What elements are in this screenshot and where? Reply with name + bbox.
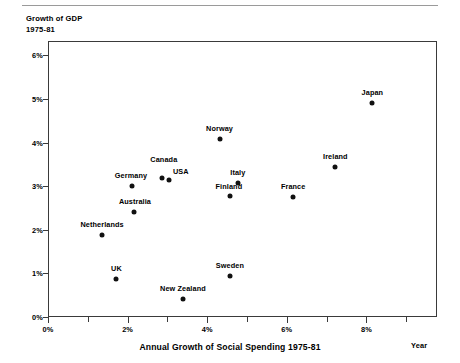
- data-point-label: New Zealand: [160, 284, 206, 293]
- data-point[interactable]: [159, 175, 164, 180]
- x-axis-tick: [128, 317, 129, 323]
- x-axis-tick-label: 2%: [122, 325, 133, 334]
- x-axis-minor-tick: [88, 317, 89, 322]
- header-divider: [22, 5, 438, 6]
- x-axis-tick: [207, 317, 208, 323]
- data-point[interactable]: [227, 193, 232, 198]
- y-axis-tick-label: 5%: [21, 95, 43, 104]
- y-axis-title: Growth of GDP1975-81: [26, 14, 82, 35]
- data-point-label: UK: [111, 263, 122, 272]
- x-axis-tick: [48, 317, 49, 323]
- y-axis-tick: [43, 143, 48, 144]
- y-axis-tick: [43, 55, 48, 56]
- y-axis-tick-label: 2%: [21, 226, 43, 235]
- data-point[interactable]: [100, 233, 105, 238]
- data-point[interactable]: [129, 183, 134, 188]
- data-point-label: Netherlands: [80, 220, 123, 229]
- chart-title: Annual Growth of Social Spending 1975-81: [0, 342, 460, 352]
- data-point-label: USA: [173, 166, 189, 175]
- x-axis-minor-tick: [327, 317, 328, 322]
- x-axis-tick: [366, 317, 367, 323]
- data-point[interactable]: [217, 137, 222, 142]
- data-point[interactable]: [333, 164, 338, 169]
- y-axis-title-line2: 1975-81: [26, 25, 55, 34]
- x-axis-minor-tick: [406, 317, 407, 322]
- y-axis-title-line1: Growth of GDP: [26, 14, 82, 23]
- y-axis-tick-label: 3%: [21, 182, 43, 191]
- data-point-label: Australia: [119, 196, 151, 205]
- data-point[interactable]: [166, 177, 171, 182]
- y-axis-tick-label: 6%: [21, 51, 43, 60]
- x-axis-minor-tick: [167, 317, 168, 322]
- data-point[interactable]: [114, 276, 119, 281]
- x-axis-tick: [287, 317, 288, 323]
- y-axis-tick-label: 1%: [21, 269, 43, 278]
- y-axis-tick-label: 0%: [21, 313, 43, 322]
- x-axis-tick-label: 4%: [202, 325, 213, 334]
- chart-page: Growth of GDP1975-81 0%1%2%3%4%5%6% 0%2%…: [0, 0, 460, 363]
- data-point-label: Japan: [362, 88, 384, 97]
- y-axis-tick: [43, 273, 48, 274]
- x-axis-tick-label: 6%: [281, 325, 292, 334]
- y-axis-tick: [43, 230, 48, 231]
- data-point-label: France: [281, 181, 306, 190]
- x-axis-tick-label: 0%: [43, 325, 54, 334]
- data-point-label: Norway: [206, 124, 233, 133]
- data-point[interactable]: [227, 274, 232, 279]
- data-point-label: Italy: [230, 167, 245, 176]
- x-axis-tick-label: 8%: [361, 325, 372, 334]
- y-axis-tick: [43, 99, 48, 100]
- data-point[interactable]: [370, 101, 375, 106]
- y-axis-tick-label: 4%: [21, 139, 43, 148]
- data-point[interactable]: [235, 180, 240, 185]
- data-point-label: Germany: [115, 170, 147, 179]
- data-point[interactable]: [131, 209, 136, 214]
- data-point-label: Ireland: [323, 151, 348, 160]
- y-axis-tick: [43, 186, 48, 187]
- x-axis-minor-tick: [247, 317, 248, 322]
- data-point-label: Canada: [150, 154, 177, 163]
- data-point[interactable]: [291, 194, 296, 199]
- data-point-label: Sweden: [216, 261, 244, 270]
- plot-area: [48, 41, 437, 317]
- data-point[interactable]: [180, 297, 185, 302]
